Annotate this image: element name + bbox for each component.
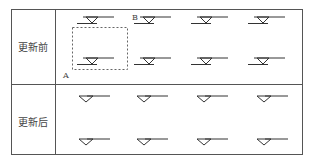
water-level-symbol [197, 139, 228, 145]
water-level-symbol [134, 17, 171, 24]
water-level-symbol [248, 17, 285, 24]
water-level-symbol [137, 139, 168, 145]
water-level-symbol [137, 96, 168, 102]
point-label-a: A [63, 71, 69, 80]
after-row-bottom-symbols [79, 139, 288, 145]
water-level-symbol [77, 17, 114, 24]
water-level-symbol [257, 96, 288, 102]
before-row-top-symbols [77, 17, 285, 24]
after-row-top-symbols [79, 96, 288, 102]
row-label-after: 更新后 [11, 114, 55, 129]
water-level-symbol [248, 58, 285, 65]
row-label-before: 更新前 [11, 39, 55, 54]
table-grid [12, 10, 303, 155]
water-level-symbol [257, 139, 288, 145]
update-diagram [0, 0, 311, 166]
water-level-symbol [79, 139, 110, 145]
water-level-symbol [197, 96, 228, 102]
water-level-symbol [79, 96, 110, 102]
water-level-symbol [77, 58, 114, 65]
water-level-symbol [191, 58, 228, 65]
point-label-b: B [132, 13, 138, 22]
water-level-symbol [191, 17, 228, 24]
water-level-symbol [134, 58, 171, 65]
selection-rectangle [73, 28, 128, 70]
before-row-bottom-symbols [77, 58, 285, 65]
